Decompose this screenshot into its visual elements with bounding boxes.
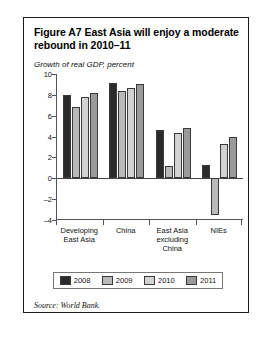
bar-group — [57, 74, 104, 220]
legend-item[interactable]: 2008 — [60, 276, 91, 285]
legend-item[interactable]: 2009 — [102, 276, 133, 285]
bar-group — [150, 74, 197, 220]
bar-group — [197, 74, 244, 220]
x-axis-label: East Asia excluding China — [149, 226, 196, 253]
y-tick-label: 10 — [44, 70, 52, 79]
bar — [202, 165, 210, 179]
bar — [81, 97, 89, 178]
figure-panel: Figure A7 East Asia will enjoy a moderat… — [23, 17, 249, 313]
x-axis-label: Developing East Asia — [56, 226, 103, 244]
x-axis-labels: Developing East AsiaChinaEast Asia exclu… — [56, 224, 242, 264]
y-tick-label: –2 — [44, 195, 52, 204]
bar — [229, 137, 237, 179]
bar — [183, 128, 191, 178]
bar — [63, 95, 71, 178]
legend-label: 2008 — [74, 276, 91, 285]
bar — [72, 107, 80, 178]
chart-legend: 2008200920102011 — [53, 272, 223, 289]
bar — [109, 83, 117, 178]
legend-label: 2011 — [200, 276, 216, 285]
bar — [90, 93, 98, 179]
bar — [211, 178, 219, 215]
x-axis-label: NIEs — [196, 226, 243, 235]
figure-title: Figure A7 East Asia will enjoy a moderat… — [34, 26, 240, 52]
legend-swatch-icon — [186, 276, 197, 285]
bar — [136, 84, 144, 178]
figure-subtitle: Growth of real GDP, percent — [34, 60, 240, 70]
plot-area — [56, 74, 242, 220]
bar-group — [104, 74, 151, 220]
legend-item[interactable]: 2011 — [186, 276, 216, 285]
legend-swatch-icon — [60, 276, 71, 285]
y-axis-labels: 1086420–2–4 — [34, 74, 52, 220]
legend-label: 2009 — [116, 276, 133, 285]
legend-swatch-icon — [144, 276, 155, 285]
legend-item[interactable]: 2010 — [144, 276, 175, 285]
bar — [156, 130, 164, 178]
bar — [174, 133, 182, 178]
chart-plot: 1086420–2–4 Developing East AsiaChinaEas… — [34, 74, 242, 244]
legend-swatch-icon — [102, 276, 113, 285]
bar — [165, 166, 173, 179]
bar — [127, 88, 135, 179]
y-tick-label: –4 — [44, 216, 52, 225]
bar — [118, 91, 126, 179]
x-axis-label: China — [103, 226, 150, 235]
bar — [220, 144, 228, 178]
source-note: Source: World Bank. — [34, 301, 100, 310]
legend-label: 2010 — [158, 276, 175, 285]
